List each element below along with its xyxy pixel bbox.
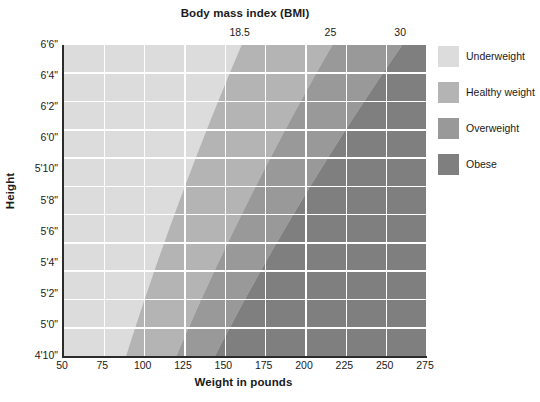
y-axis-tick-label: 5'2" xyxy=(2,287,58,299)
y-axis-tick-label: 5'6" xyxy=(2,225,58,237)
legend-swatch xyxy=(438,82,459,103)
legend-swatch xyxy=(438,154,459,175)
bmi-boundary-label: 25 xyxy=(305,26,355,38)
legend-label: Underweight xyxy=(466,50,525,62)
y-axis-tick-label: 6'0" xyxy=(2,131,58,143)
plot-area xyxy=(62,45,427,358)
legend-label: Obese xyxy=(466,158,497,170)
bmi-bands xyxy=(64,45,427,356)
legend: UnderweightHealthy weightOverweightObese xyxy=(438,46,538,190)
legend-item: Overweight xyxy=(438,118,538,139)
legend-label: Overweight xyxy=(466,122,519,134)
chart-title: Body mass index (BMI) xyxy=(0,7,490,19)
bmi-boundary-label: 30 xyxy=(375,26,425,38)
bmi-chart: Body mass index (BMI) Height Weight in p… xyxy=(0,0,540,402)
y-axis-tick-label: 5'8" xyxy=(2,194,58,206)
y-axis-tick-label: 5'4" xyxy=(2,256,58,268)
y-axis-tick-label: 6'6" xyxy=(2,38,58,50)
legend-swatch xyxy=(438,46,459,67)
y-axis-tick-label: 5'0" xyxy=(2,318,58,330)
y-axis-tick-label: 5'10" xyxy=(2,162,58,174)
legend-item: Healthy weight xyxy=(438,82,538,103)
legend-swatch xyxy=(438,118,459,139)
legend-label: Healthy weight xyxy=(466,86,535,98)
y-axis-tick-label: 6'4" xyxy=(2,69,58,81)
legend-item: Underweight xyxy=(438,46,538,67)
x-axis-title: Weight in pounds xyxy=(62,376,425,388)
y-axis-tick-label: 6'2" xyxy=(2,100,58,112)
bmi-boundary-label: 18.5 xyxy=(215,26,265,38)
legend-item: Obese xyxy=(438,154,538,175)
y-axis-tick-labels: 6'6"6'4"6'2"6'0"5'10"5'8"5'6"5'4"5'2"5'0… xyxy=(0,0,58,402)
x-axis-tick-label: 275 xyxy=(400,359,450,371)
